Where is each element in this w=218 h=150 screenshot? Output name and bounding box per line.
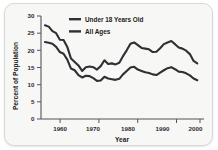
y-axis-ticks (37, 16, 41, 119)
y-tick-label: 30 (28, 12, 35, 19)
x-tick-label: 2000 (189, 125, 203, 132)
series-line-under-18 (45, 25, 197, 71)
legend-label-under-18: Under 18 Years Old (85, 16, 144, 23)
x-tick-label: 1990 (156, 125, 170, 132)
y-tick-label: 15 (28, 64, 35, 71)
line-chart: Percent of Population 0 5 10 15 20 25 (5, 4, 214, 147)
chart-legend: Under 18 Years Old All Ages (69, 16, 144, 36)
y-axis-tick-labels: 0 5 10 15 20 25 30 (28, 12, 35, 122)
y-axis-title: Percent of Population (12, 42, 20, 110)
x-axis-title: Year (115, 136, 129, 143)
y-tick-label: 25 (28, 29, 35, 36)
x-tick-label: 1960 (53, 125, 67, 132)
chart-card: Percent of Population 0 5 10 15 20 25 (4, 3, 213, 146)
legend-label-all-ages: All Ages (85, 28, 111, 36)
y-tick-label: 0 (31, 115, 35, 122)
chart-plot-area: Percent of Population 0 5 10 15 20 25 (5, 4, 214, 147)
y-tick-label: 5 (31, 98, 35, 105)
x-tick-label: 1980 (121, 125, 135, 132)
y-tick-label: 20 (28, 47, 35, 54)
x-tick-label: 1970 (86, 125, 100, 132)
y-tick-label: 10 (28, 81, 35, 88)
x-axis-tick-labels: 1960 1970 1980 1990 2000 (53, 125, 203, 132)
x-axis-ticks (60, 119, 200, 123)
